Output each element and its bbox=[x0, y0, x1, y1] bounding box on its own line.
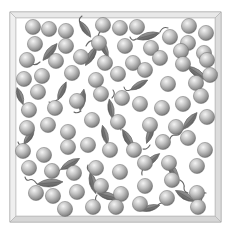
sphere bbox=[110, 66, 125, 81]
sphere bbox=[137, 155, 152, 170]
sphere bbox=[69, 184, 84, 199]
particle-box-illustration bbox=[0, 0, 233, 233]
sphere bbox=[189, 158, 204, 173]
sphere bbox=[93, 178, 108, 193]
sphere bbox=[180, 130, 195, 145]
sphere bbox=[199, 52, 214, 67]
sphere bbox=[58, 23, 73, 38]
sphere bbox=[159, 190, 174, 205]
sphere bbox=[40, 117, 55, 132]
sphere bbox=[161, 155, 176, 170]
sphere bbox=[93, 86, 108, 101]
sphere bbox=[137, 62, 152, 77]
sphere bbox=[34, 68, 49, 83]
diagram-canvas bbox=[0, 0, 233, 233]
sphere bbox=[41, 21, 56, 36]
sphere bbox=[60, 139, 75, 154]
sphere bbox=[190, 199, 205, 214]
sphere bbox=[88, 72, 103, 87]
sphere bbox=[27, 36, 42, 51]
sphere bbox=[110, 114, 125, 129]
sphere bbox=[160, 76, 175, 91]
sphere bbox=[16, 71, 31, 86]
sphere bbox=[21, 160, 36, 175]
sphere bbox=[152, 50, 167, 65]
sphere bbox=[45, 188, 60, 203]
sphere bbox=[199, 109, 214, 124]
sphere bbox=[175, 56, 190, 71]
sphere bbox=[114, 90, 129, 105]
sphere bbox=[162, 29, 177, 44]
sphere bbox=[15, 143, 30, 158]
sphere bbox=[155, 134, 170, 149]
sphere bbox=[88, 160, 103, 175]
sphere bbox=[28, 185, 43, 200]
sphere bbox=[84, 112, 99, 127]
sphere bbox=[108, 199, 123, 214]
sphere bbox=[47, 100, 62, 115]
sphere bbox=[189, 185, 204, 200]
sphere bbox=[64, 65, 79, 80]
sphere bbox=[117, 38, 132, 53]
sphere bbox=[36, 147, 51, 162]
sphere bbox=[102, 142, 117, 157]
sphere bbox=[126, 142, 141, 157]
sphere bbox=[164, 172, 179, 187]
sphere bbox=[73, 49, 88, 64]
sphere bbox=[168, 119, 183, 134]
sphere bbox=[112, 164, 127, 179]
sphere bbox=[193, 88, 208, 103]
sphere bbox=[60, 124, 75, 139]
sphere bbox=[154, 100, 169, 115]
sphere bbox=[66, 165, 81, 180]
sphere bbox=[80, 137, 95, 152]
sphere bbox=[19, 52, 34, 67]
sphere bbox=[91, 35, 106, 50]
sphere bbox=[58, 38, 73, 53]
sphere bbox=[97, 55, 112, 70]
sphere bbox=[198, 25, 213, 40]
sphere bbox=[69, 93, 84, 108]
sphere bbox=[181, 18, 196, 33]
sphere bbox=[142, 117, 157, 132]
sphere bbox=[30, 84, 45, 99]
sphere bbox=[57, 201, 72, 216]
sphere bbox=[25, 19, 40, 34]
sphere bbox=[132, 196, 147, 211]
sphere bbox=[85, 199, 100, 214]
sphere bbox=[202, 67, 217, 82]
sphere bbox=[112, 20, 127, 35]
sphere bbox=[129, 19, 144, 34]
sphere bbox=[44, 163, 59, 178]
sphere bbox=[175, 96, 190, 111]
sphere bbox=[197, 142, 212, 157]
sphere bbox=[95, 17, 110, 32]
sphere bbox=[19, 120, 34, 135]
sphere bbox=[173, 43, 188, 58]
sphere bbox=[21, 102, 36, 117]
sphere bbox=[137, 178, 152, 193]
sphere bbox=[48, 53, 63, 68]
sphere bbox=[132, 96, 147, 111]
